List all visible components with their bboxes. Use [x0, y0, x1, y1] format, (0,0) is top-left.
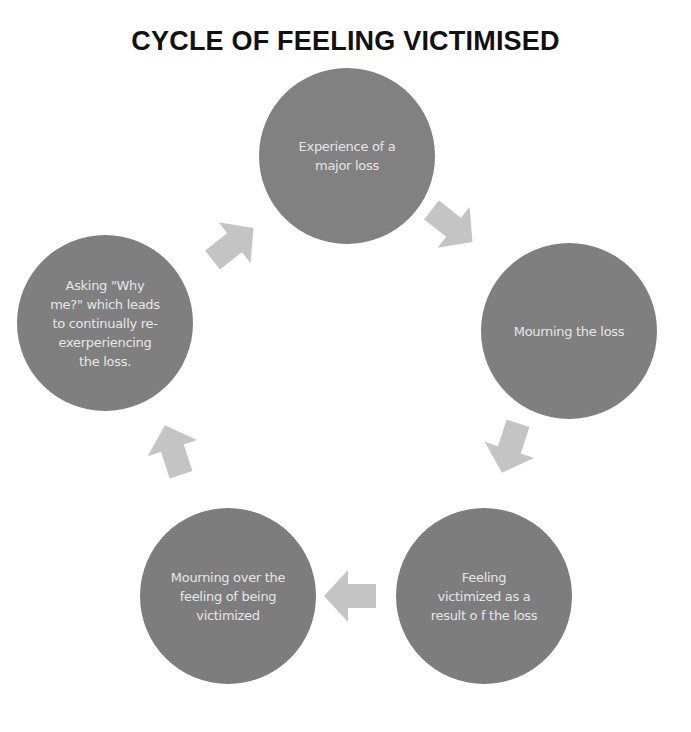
- cycle-node-mourning-over-victimization: Mourning over the feeling of being victi…: [140, 508, 316, 684]
- cycle-node-asking-why-me: Asking "Why me?" which leads to continua…: [17, 235, 193, 411]
- node-label: Experience of a major loss: [285, 137, 409, 175]
- arrow-up-icon: [135, 412, 211, 488]
- arrow-left-icon: [320, 566, 380, 626]
- cycle-node-mourning-the-loss: Mourning the loss: [481, 243, 657, 419]
- node-label: Mourning over the feeling of being victi…: [166, 568, 290, 625]
- diagram-title: CYCLE OF FEELING VICTIMISED: [0, 26, 691, 57]
- node-label: Mourning the loss: [514, 322, 624, 341]
- cycle-node-experience-of-loss: Experience of a major loss: [259, 68, 435, 244]
- node-label: Feeling victimized as a result o f the l…: [430, 568, 538, 625]
- arrow-up-right-icon: [191, 202, 275, 286]
- node-label: Asking "Why me?" which leads to continua…: [49, 276, 161, 371]
- arrow-down-icon: [472, 410, 548, 486]
- cycle-node-feeling-victimized: Feeling victimized as a result o f the l…: [396, 508, 572, 684]
